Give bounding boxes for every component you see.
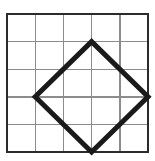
grid-inner-fill bbox=[7, 14, 148, 152]
grid-cells-group bbox=[7, 14, 148, 152]
figure-container: g Square grid with inscribed diamond bbox=[0, 0, 155, 161]
grid-diagram-svg bbox=[0, 0, 155, 161]
